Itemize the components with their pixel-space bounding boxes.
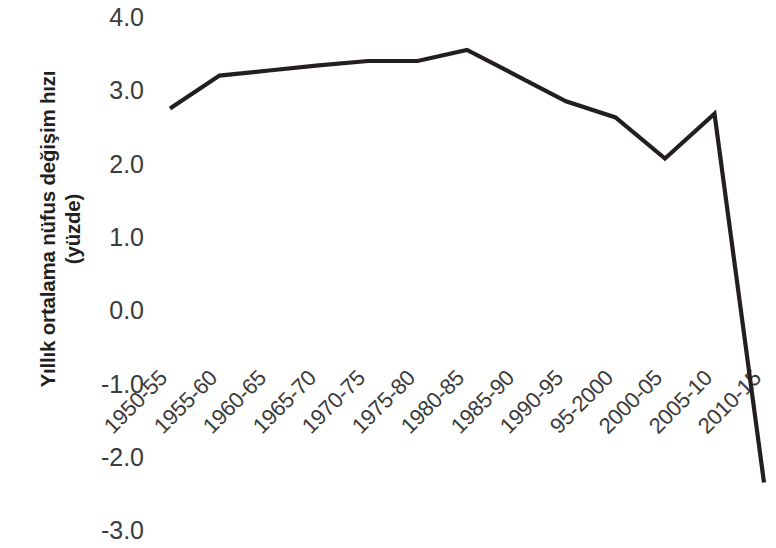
chart-container: Yıllık ortalama nüfus değişim hızı (yüzd… [0, 0, 776, 548]
series-line-population-growth [170, 50, 764, 483]
plot-area [0, 0, 776, 548]
